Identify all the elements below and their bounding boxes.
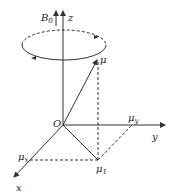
mu1-vector bbox=[63, 125, 98, 160]
x-axis-label: x bbox=[16, 182, 22, 193]
mu-label: μ bbox=[100, 54, 107, 65]
precession-ellipse-back bbox=[22, 30, 106, 45]
precession-direction-arrow-front bbox=[31, 56, 36, 60]
b0-label: B0 bbox=[40, 12, 53, 25]
mu-1-label: μ1 bbox=[96, 163, 107, 176]
precession-diagram: B0 z μ O y x μx μy μ1 bbox=[0, 0, 176, 195]
y-axis-label: y bbox=[151, 131, 158, 142]
z-axis-label: z bbox=[67, 12, 74, 23]
mu-y-label: μy bbox=[128, 112, 140, 125]
mu-x-label: μx bbox=[18, 151, 29, 164]
origin-label: O bbox=[53, 118, 61, 129]
mu-vector bbox=[63, 60, 97, 125]
muy-dashed-line bbox=[98, 125, 132, 160]
